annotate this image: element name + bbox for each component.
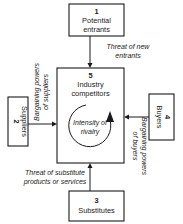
suppliers-arrow	[28, 122, 57, 127]
threat-substitutes-label-2: products or services	[23, 178, 87, 186]
substitutes-arrow-head	[88, 163, 93, 168]
bargaining-buyers-label-2: of buyers	[131, 132, 139, 161]
suppliers-arrow-head	[52, 122, 57, 127]
suppliers-node: 2 Suppliers	[8, 97, 29, 146]
buyers-node: 4 Buyers	[149, 94, 174, 140]
bargaining-suppliers-label-2: of suppliers	[42, 74, 50, 110]
substitutes-number: 3	[94, 196, 98, 205]
suppliers-label: Suppliers	[20, 106, 29, 137]
buyers-arrow-head	[124, 115, 129, 120]
substitutes-label: Substitutes	[78, 206, 115, 215]
rivalry-label-1: Intensity of	[73, 119, 108, 127]
bargaining-buyers-label-1: Bargaining powers	[140, 117, 148, 175]
bargaining-suppliers-label-1: Bargaining powers	[33, 63, 41, 121]
buyers-label: Buyers	[155, 105, 164, 128]
rivalry-label-2: rivalry	[81, 128, 100, 136]
threat-new-entrants-label-2: entrants	[115, 52, 141, 59]
entrants-arrow-head	[88, 63, 93, 68]
threat-substitutes-label-1: Threat of substitute	[25, 169, 85, 176]
competitors-label-2: competitors	[71, 89, 110, 98]
substitutes-node: 3 Substitutes	[69, 191, 124, 221]
five-forces-diagram: 1 Potential entrants Threat of new entra…	[0, 0, 183, 224]
substitutes-arrow	[88, 163, 93, 191]
competitors-number: 5	[88, 71, 92, 80]
entrants-arrow	[88, 36, 93, 68]
threat-new-entrants-label-1: Threat of new	[107, 43, 151, 50]
competitors-label-1: Industry	[77, 80, 104, 89]
competitors-node: 5 Industry competitors Intensity of riva…	[57, 68, 124, 163]
entrants-number: 1	[94, 7, 98, 16]
suppliers-number: 2	[12, 119, 21, 123]
entrants-label-1: Potential	[82, 16, 111, 25]
entrants-node: 1 Potential entrants	[69, 4, 124, 36]
entrants-label-2: entrants	[83, 25, 110, 34]
